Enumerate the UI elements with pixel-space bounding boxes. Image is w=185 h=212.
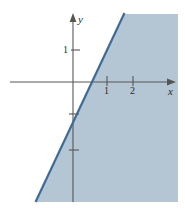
x-tick-label-2: 2 (130, 86, 135, 96)
y-axis-label: y (78, 14, 83, 25)
graph-figure: y x 1 1 2 (0, 0, 185, 212)
x-axis-label: x (168, 86, 173, 97)
y-axis-arrow-icon (70, 13, 77, 22)
plot-canvas (0, 0, 185, 212)
solution-region-fill (36, 14, 178, 202)
y-tick-label-1: 1 (63, 45, 68, 55)
x-tick-label-1: 1 (104, 86, 109, 96)
